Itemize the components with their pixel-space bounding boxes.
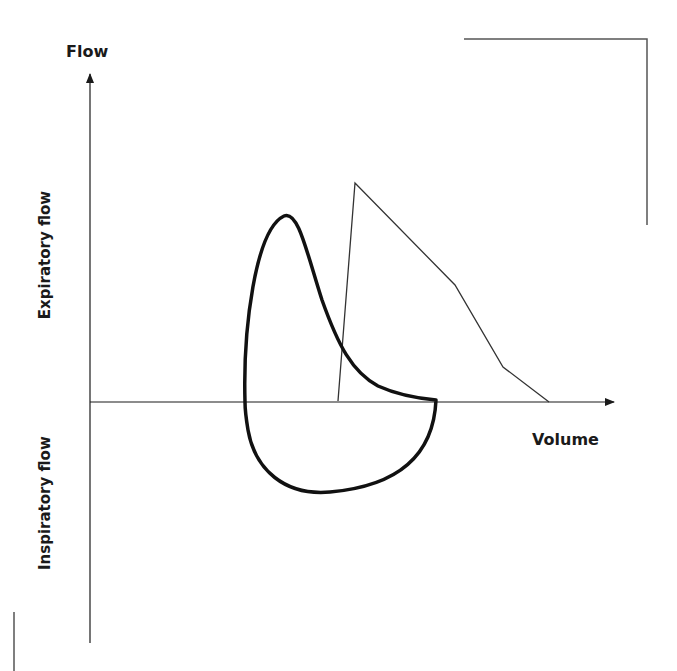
corner-bracket xyxy=(464,39,647,225)
expiratory-flow-label: Expiratory flow xyxy=(36,190,54,320)
reference-curve xyxy=(338,183,549,402)
y-axis-label: Flow xyxy=(66,42,108,61)
flow-volume-diagram xyxy=(0,0,677,671)
x-axis-label: Volume xyxy=(532,430,599,449)
inspiratory-flow-label: Inspiratory flow xyxy=(36,440,54,570)
flow-volume-loop xyxy=(245,215,436,492)
